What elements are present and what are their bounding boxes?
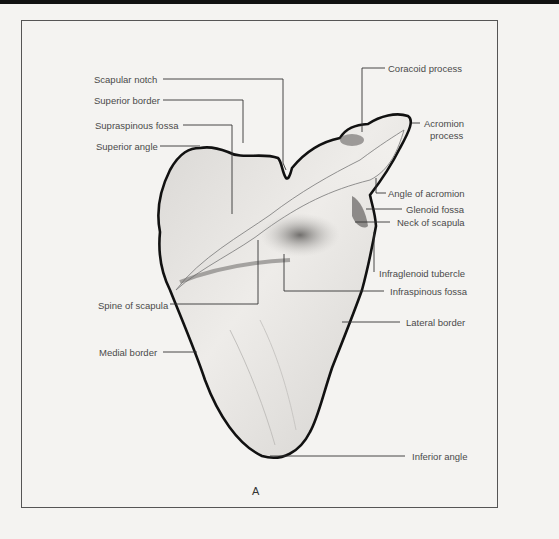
label-acromion-process-line2: process [430, 130, 463, 141]
label-infraspinous-fossa: Infraspinous fossa [390, 286, 467, 297]
label-supraspinous-fossa: Supraspinous fossa [95, 120, 178, 131]
label-spine-of-scapula: Spine of scapula [98, 300, 168, 311]
label-inferior-angle: Inferior angle [412, 451, 467, 462]
label-lateral-border: Lateral border [406, 317, 465, 328]
label-infraglenoid-tubercle: Infraglenoid tubercle [379, 268, 465, 279]
label-glenoid-fossa: Glenoid fossa [406, 204, 464, 215]
label-coracoid-process: Coracoid process [388, 63, 462, 74]
panel-letter: A [252, 485, 259, 497]
label-superior-angle: Superior angle [96, 141, 158, 152]
label-scapular-notch: Scapular notch [94, 74, 157, 85]
label-medial-border: Medial border [99, 347, 157, 358]
label-superior-border: Superior border [94, 95, 160, 106]
label-neck-of-scapula: Neck of scapula [397, 217, 465, 228]
scapula-illustration [0, 0, 559, 539]
label-angle-of-acromion: Angle of acromion [388, 188, 465, 199]
label-acromion-process: Acromion [424, 118, 464, 129]
